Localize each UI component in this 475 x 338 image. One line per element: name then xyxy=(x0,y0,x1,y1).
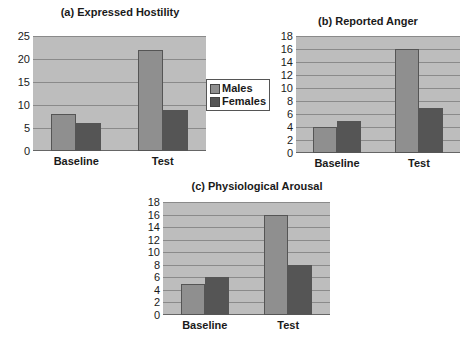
y-tick-label: 15 xyxy=(8,77,30,88)
bar-males-test xyxy=(395,49,419,153)
y-tick-label: 16 xyxy=(271,44,293,55)
legend-label: Males xyxy=(222,82,253,95)
y-tick-label: 6 xyxy=(271,109,293,120)
bar-males-baseline xyxy=(181,284,205,315)
gridline xyxy=(33,59,206,60)
legend: Males Females xyxy=(206,79,270,111)
females-swatch-icon xyxy=(210,97,220,107)
gridline xyxy=(296,75,460,76)
x-category-label: Test xyxy=(408,157,430,169)
legend-label: Females xyxy=(222,95,266,108)
plot-area xyxy=(33,36,206,151)
bar-females-baseline xyxy=(76,123,101,151)
bar-females-test xyxy=(288,265,312,315)
bar-females-test xyxy=(163,110,188,151)
y-tick-label: 14 xyxy=(271,57,293,68)
gridline xyxy=(296,101,460,102)
gridline xyxy=(163,227,330,228)
y-tick-label: 6 xyxy=(138,272,160,283)
y-tick-label: 12 xyxy=(271,70,293,81)
chart-title: (a) Expressed Hostility xyxy=(61,6,180,18)
y-tick-label: 8 xyxy=(271,96,293,107)
bar-females-baseline xyxy=(205,277,229,315)
x-category-label: Baseline xyxy=(54,155,99,167)
gridline xyxy=(296,88,460,89)
y-tick-label: 16 xyxy=(138,209,160,220)
plot-area xyxy=(163,202,330,315)
y-tick-label: 5 xyxy=(8,123,30,134)
y-tick-label: 18 xyxy=(271,31,293,42)
legend-item-males: Males xyxy=(210,82,266,95)
y-tick-label: 0 xyxy=(138,310,160,321)
bar-males-baseline xyxy=(313,127,337,153)
gridline xyxy=(33,36,206,37)
y-tick-label: 14 xyxy=(138,222,160,233)
males-swatch-icon xyxy=(210,84,220,94)
bar-males-baseline xyxy=(51,114,76,151)
x-category-label: Baseline xyxy=(314,157,359,169)
y-tick-label: 10 xyxy=(271,83,293,94)
gridline xyxy=(296,62,460,63)
gridline xyxy=(163,215,330,216)
gridline xyxy=(163,202,330,203)
y-tick-label: 2 xyxy=(271,135,293,146)
y-tick-label: 10 xyxy=(8,100,30,111)
y-tick-label: 0 xyxy=(271,148,293,159)
bar-males-test xyxy=(138,50,163,151)
gridline xyxy=(33,105,206,106)
chart-title: (c) Physiological Arousal xyxy=(191,180,322,192)
chart-title: (b) Reported Anger xyxy=(318,15,418,27)
y-tick-label: 10 xyxy=(138,247,160,258)
x-category-label: Test xyxy=(277,319,299,331)
y-tick-label: 4 xyxy=(271,122,293,133)
gridline xyxy=(296,36,460,37)
gridline xyxy=(296,49,460,50)
bar-males-test xyxy=(264,215,288,315)
y-tick-label: 4 xyxy=(138,284,160,295)
y-tick-label: 2 xyxy=(138,297,160,308)
x-category-label: Test xyxy=(152,155,174,167)
legend-item-females: Females xyxy=(210,95,266,108)
y-tick-label: 8 xyxy=(138,259,160,270)
y-tick-label: 20 xyxy=(8,54,30,65)
bar-females-baseline xyxy=(337,121,361,154)
y-tick-label: 18 xyxy=(138,197,160,208)
gridline xyxy=(33,82,206,83)
gridline xyxy=(163,252,330,253)
x-category-label: Baseline xyxy=(182,319,227,331)
y-tick-label: 12 xyxy=(138,234,160,245)
bar-females-test xyxy=(419,108,443,154)
y-tick-label: 25 xyxy=(8,31,30,42)
gridline xyxy=(163,240,330,241)
plot-area xyxy=(296,36,460,153)
y-tick-label: 0 xyxy=(8,146,30,157)
